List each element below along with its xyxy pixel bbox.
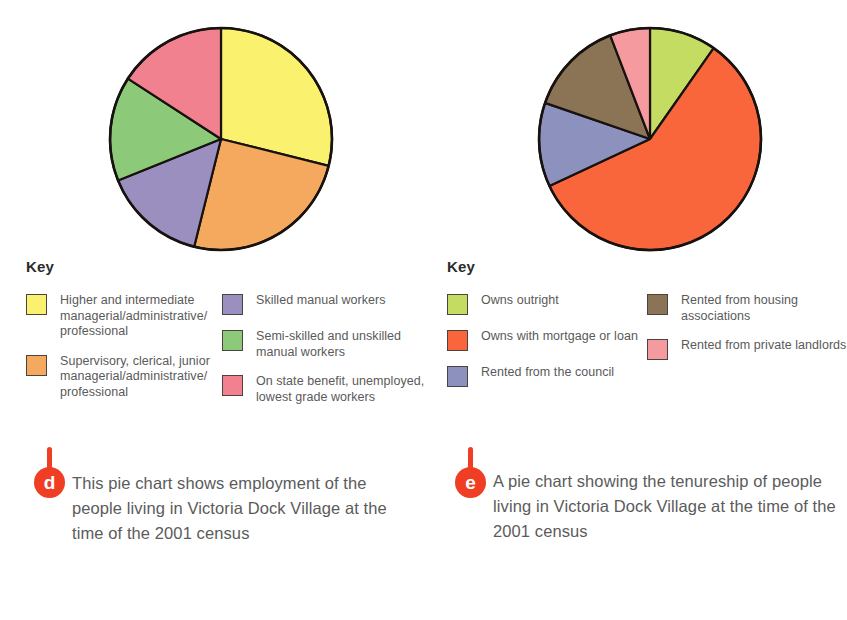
tenureship-chart-panel: Key Owns outright Owns with mortgage or … <box>421 0 842 620</box>
tenureship-key: Key Owns outright Owns with mortgage or … <box>447 258 847 401</box>
legend-item: Rented from the council <box>447 365 647 387</box>
legend-item: Skilled manual workers <box>222 293 426 315</box>
legend-label: Skilled manual workers <box>256 293 386 309</box>
legend-swatch <box>26 294 47 315</box>
legend-item: Owns outright <box>447 293 647 315</box>
legend-item: On state benefit, unemployed, lowest gra… <box>222 374 426 405</box>
employment-chart-panel: Key Higher and intermediate managerial/a… <box>0 0 421 620</box>
legend-item: Higher and intermediate managerial/admin… <box>26 293 222 340</box>
employment-pie-chart <box>106 24 336 254</box>
tenureship-pie-chart <box>535 24 765 254</box>
legend-label: Owns outright <box>481 293 559 309</box>
key-column-2: Skilled manual workers Semi-skilled and … <box>222 293 426 419</box>
legend-label: Rented from the council <box>481 365 614 381</box>
legend-item: Rented from private landlords <box>647 338 847 360</box>
legend-swatch <box>447 294 468 315</box>
legend-label: Rented from housing associations <box>681 293 847 324</box>
marker-letter: d <box>34 467 65 498</box>
legend-swatch <box>647 294 668 315</box>
legend-swatch <box>447 366 468 387</box>
legend-swatch <box>26 355 47 376</box>
legend-swatch <box>647 339 668 360</box>
legend-label: Rented from private landlords <box>681 338 846 354</box>
key-column-2: Rented from housing associations Rented … <box>647 293 847 401</box>
legend-item: Owns with mortgage or loan <box>447 329 647 351</box>
key-title: Key <box>26 258 426 275</box>
legend-label: Higher and intermediate managerial/admin… <box>60 293 222 340</box>
marker-letter: e <box>455 467 486 498</box>
tenureship-caption-block: e A pie chart showing the tenureship of … <box>447 455 837 544</box>
caption-text: This pie chart shows employment of the p… <box>72 455 416 546</box>
employment-caption-block: d This pie chart shows employment of the… <box>26 455 416 546</box>
legend-label: Owns with mortgage or loan <box>481 329 638 345</box>
caption-marker-e: e <box>447 455 493 511</box>
key-column-1: Owns outright Owns with mortgage or loan… <box>447 293 647 401</box>
caption-marker-d: d <box>26 455 72 511</box>
employment-key: Key Higher and intermediate managerial/a… <box>26 258 426 419</box>
key-column-1: Higher and intermediate managerial/admin… <box>26 293 222 419</box>
tenureship-pie-svg <box>535 24 765 254</box>
legend-item: Supervisory, clerical, junior managerial… <box>26 354 222 401</box>
legend-swatch <box>447 330 468 351</box>
employment-pie-svg <box>106 24 336 254</box>
legend-item: Semi-skilled and unskilled manual worker… <box>222 329 426 360</box>
caption-text: A pie chart showing the tenureship of pe… <box>493 455 837 544</box>
legend-label: On state benefit, unemployed, lowest gra… <box>256 374 426 405</box>
legend-label: Supervisory, clerical, junior managerial… <box>60 354 222 401</box>
legend-item: Rented from housing associations <box>647 293 847 324</box>
legend-swatch <box>222 294 243 315</box>
key-title: Key <box>447 258 847 275</box>
legend-label: Semi-skilled and unskilled manual worker… <box>256 329 426 360</box>
legend-swatch <box>222 330 243 351</box>
legend-swatch <box>222 375 243 396</box>
